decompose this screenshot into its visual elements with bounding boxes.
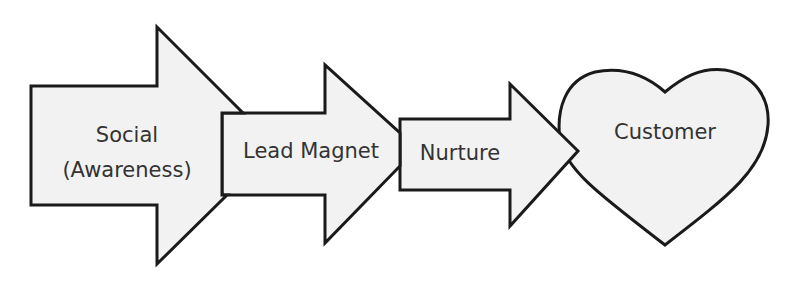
stage-lead-magnet: Lead Magnet: [222, 65, 400, 243]
lead-magnet-label: Lead Magnet: [243, 139, 379, 163]
heart-shape: [559, 70, 768, 245]
stage-nurture: Nurture: [400, 84, 578, 226]
funnel-diagram: Customer Nurture Lead Magnet Social (Awa…: [0, 0, 811, 291]
social-label-line2: (Awareness): [62, 158, 191, 182]
customer-label: Customer: [614, 120, 716, 144]
stage-customer: Customer: [559, 70, 768, 245]
social-label-line1: Social: [96, 123, 158, 147]
stage-social: Social (Awareness): [31, 27, 243, 264]
nurture-label: Nurture: [420, 141, 500, 165]
